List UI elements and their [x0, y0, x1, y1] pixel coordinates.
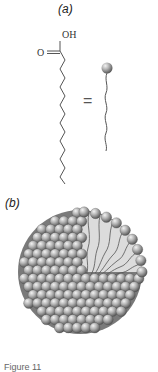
- fatty-acid-skeletal-structure: [47, 41, 65, 184]
- head-group-bead-icon: [102, 63, 113, 74]
- panel-b-label: (b): [5, 196, 20, 210]
- figure-caption-fragment: Figure 11: [4, 362, 41, 372]
- fatty-acid-bead-schematic: [102, 63, 113, 152]
